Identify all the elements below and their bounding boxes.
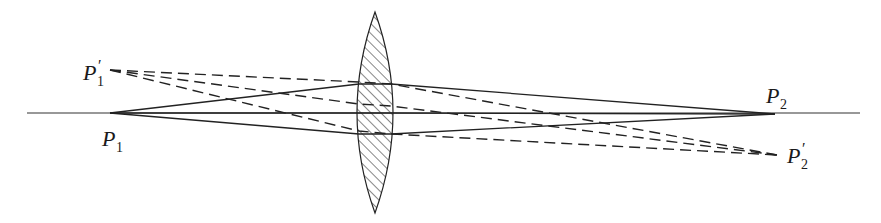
solid-ray-2 <box>110 113 775 114</box>
solid-ray-1 <box>110 84 775 114</box>
label-p2-prime-subscript: 2 <box>801 157 808 172</box>
label-p2: P 2 <box>765 83 787 112</box>
label-p1-subscript: 1 <box>116 140 123 155</box>
label-p2-subscript: 2 <box>780 97 787 112</box>
label-p1-prime-mark: ′ <box>98 57 102 74</box>
label-p2-letter: P <box>765 83 779 108</box>
label-p1-letter: P <box>101 126 115 151</box>
label-p1-prime-subscript: 1 <box>97 74 104 89</box>
label-p2-prime: P ′ 2 <box>786 140 808 172</box>
solid-rays <box>110 84 775 134</box>
label-p1-prime-letter: P <box>82 60 96 85</box>
solid-ray-3 <box>110 113 775 134</box>
label-p1: P 1 <box>101 126 123 155</box>
lens-imaging-diagram: P ′ 1 P 1 P 2 P ′ 2 <box>0 0 881 223</box>
label-p1-prime: P ′ 1 <box>82 57 104 89</box>
label-p2-prime-mark: ′ <box>802 140 806 157</box>
label-p2-prime-letter: P <box>786 143 800 168</box>
